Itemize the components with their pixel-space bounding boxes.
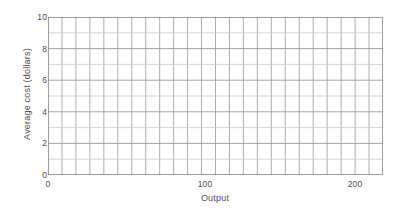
x-tick-label-100: 100 (185, 180, 225, 189)
x-axis-title: Output (0, 193, 405, 203)
grid-lines (48, 17, 383, 175)
x-axis-title-text: Output (201, 193, 229, 203)
y-axis-title: Average cost (dollars) (22, 14, 32, 174)
chart-figure: 10 8 6 4 2 0 0 100 200 Output Average co… (0, 0, 405, 216)
plot-area (48, 17, 383, 175)
x-tick-label-0: 0 (28, 180, 68, 189)
x-tick-label-200: 200 (335, 180, 375, 189)
